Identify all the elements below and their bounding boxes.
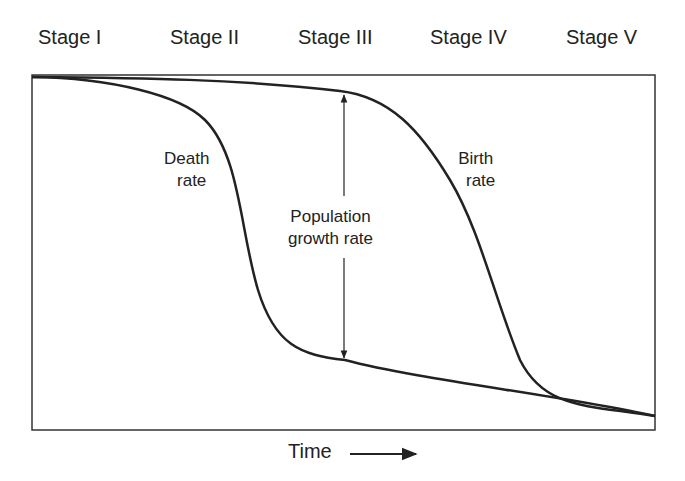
- population-growth-label: Population growth rate: [288, 206, 373, 250]
- birth-label-line2: rate: [456, 170, 495, 192]
- growth-label-line2: growth rate: [288, 228, 373, 250]
- birth-rate-label: Birth rate: [456, 148, 495, 192]
- death-rate-label: Death rate: [164, 148, 209, 192]
- death-label-line1: Death: [164, 148, 209, 170]
- death-label-line2: rate: [164, 170, 209, 192]
- x-axis-label: Time: [288, 440, 332, 463]
- growth-label-line1: Population: [288, 206, 373, 228]
- birth-label-line1: Birth: [456, 148, 495, 170]
